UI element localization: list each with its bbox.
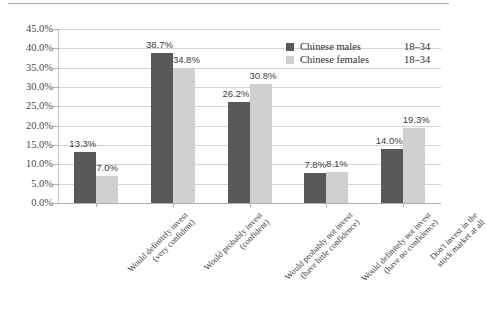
- x-axis-category-label: Would definitely invest(very confident): [126, 210, 198, 282]
- legend-swatch-female-icon: [286, 56, 294, 64]
- gridline: [58, 68, 441, 69]
- x-axis-category-line: Would probably not invest: [282, 210, 354, 282]
- bar-value-label: 19.3%: [403, 115, 439, 125]
- x-axis-category-label: Would probably invest(confident): [202, 210, 272, 280]
- y-axis-tick-mark: [53, 164, 59, 165]
- y-axis-tick-mark: [53, 145, 59, 146]
- chart-legend: Chinese males 18–34 Chinese females 18–3…: [286, 40, 430, 66]
- y-axis-tick-mark: [53, 203, 59, 204]
- y-axis-tick-mark: [53, 48, 59, 49]
- x-axis-tick-mark: [403, 203, 404, 207]
- y-axis-tick-label: 25.0%: [26, 101, 53, 112]
- y-axis-tick-label: 20.0%: [26, 121, 53, 132]
- y-axis-tick-label: 5.0%: [31, 179, 53, 190]
- legend-age-male: 18–34: [404, 41, 430, 52]
- legend-item-male: Chinese males 18–34: [286, 40, 430, 53]
- bar-male: [381, 149, 403, 203]
- y-axis-tick-label: 0.0%: [31, 198, 53, 209]
- bar-male: [304, 173, 326, 203]
- bar-male: [228, 102, 250, 203]
- bar-value-label: 26.2%: [218, 89, 250, 99]
- bar-male: [151, 53, 173, 203]
- bar-male: [74, 152, 96, 203]
- y-axis-tick-label: 15.0%: [26, 140, 53, 151]
- y-axis-tick-mark: [53, 184, 59, 185]
- bar-value-label: 34.8%: [173, 55, 209, 65]
- x-axis-category-line: (have little confidence): [290, 217, 362, 289]
- legend-swatch-male-icon: [286, 43, 294, 51]
- bar-female: [173, 68, 195, 203]
- legend-label-male: Chinese males: [300, 41, 404, 52]
- bar-value-label: 13.3%: [64, 139, 96, 149]
- y-axis-tick-mark: [53, 106, 59, 107]
- y-axis-tick-label: 40.0%: [26, 43, 53, 54]
- x-axis-tick-mark: [326, 203, 327, 207]
- legend-age-female: 18–34: [404, 54, 430, 65]
- y-axis-line: [58, 29, 59, 203]
- bar-value-label: 38.7%: [141, 40, 173, 50]
- y-axis-labels: 45.0%40.0%35.0%30.0%25.0%20.0%15.0%10.0%…: [0, 0, 53, 325]
- x-axis-category-line: Would definitely not invest: [360, 210, 434, 284]
- y-axis-tick-label: 45.0%: [26, 24, 53, 35]
- y-axis-tick-mark: [53, 87, 59, 88]
- bar-value-label: 7.8%: [294, 160, 326, 170]
- x-axis-category-label: Would probably not invest(have little co…: [282, 210, 361, 289]
- x-axis-category-label: Would definitely not invest(have no conf…: [360, 210, 441, 291]
- bar-female: [250, 84, 272, 203]
- x-axis-tick-mark: [96, 203, 97, 207]
- y-axis-tick-mark: [53, 126, 59, 127]
- x-axis-category-line: Would definitely invest: [126, 210, 190, 274]
- legend-label-female: Chinese females: [300, 54, 404, 65]
- legend-item-female: Chinese females 18–34: [286, 53, 430, 66]
- bar-female: [326, 172, 348, 203]
- bar-value-label: 30.8%: [250, 71, 286, 81]
- top-rule-divider: [8, 3, 449, 4]
- bar-value-label: 14.0%: [371, 136, 403, 146]
- y-axis-tick-mark: [53, 29, 59, 30]
- y-axis-tick-mark: [53, 68, 59, 69]
- x-axis-tick-mark: [250, 203, 251, 207]
- y-axis-tick-label: 10.0%: [26, 159, 53, 170]
- bar-value-label: 7.0%: [96, 163, 132, 173]
- bar-female: [403, 128, 425, 203]
- x-axis-category-label: Don't invest in thestock market at all: [427, 210, 487, 270]
- y-axis-tick-label: 35.0%: [26, 63, 53, 74]
- x-axis-tick-mark: [173, 203, 174, 207]
- bar-female: [96, 176, 118, 203]
- y-axis-tick-label: 30.0%: [26, 82, 53, 93]
- bar-value-label: 8.1%: [326, 159, 362, 169]
- gridline: [58, 29, 441, 30]
